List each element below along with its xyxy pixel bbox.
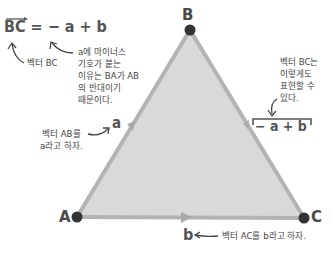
edge-label-b: b (183, 225, 193, 244)
annotation-minus-reason: a에 마이너스 기호가 붙는 이유는 BA가 AB 의 반대이기 때문이다. (78, 46, 139, 106)
vertex-a-dot (72, 212, 83, 223)
equation-equals: = (31, 17, 43, 36)
annotation-line: 이렇게도 (280, 68, 318, 80)
annotation-line: 때문이다. (78, 94, 139, 106)
annotation-line: a에 마이너스 (78, 46, 139, 58)
annotation-line: 의 반대이기 (78, 82, 139, 94)
vertex-c-dot (299, 213, 310, 224)
annotation-vector-bc: 벡터 BC (27, 57, 57, 69)
bc-expression: − a + b (255, 118, 307, 134)
curved-arrow-bc-label-icon (12, 44, 24, 63)
equation-lhs: BC (4, 17, 26, 36)
curved-arrow-ab-icon (88, 129, 108, 135)
vertex-b-dot (185, 25, 196, 36)
annotation-line: 벡터 AB를 (40, 128, 83, 140)
annotation-line: a라고 하자. (40, 140, 83, 152)
edge-label-a: a (112, 114, 121, 132)
annotation-ab-def: 벡터 AB를 a라고 하자. (40, 128, 83, 152)
vertex-label-b: B (182, 6, 193, 24)
annotation-bc-alt: 벡터 BC는 이렇게도 표현할 수 있다. (280, 56, 318, 104)
annotation-line: 기호가 붙는 (78, 58, 139, 70)
curved-arrow-minus-icon (52, 43, 73, 53)
equation-rhs: − a + b (48, 17, 107, 36)
arrow-ac-icon (196, 235, 218, 236)
annotation-line: 있다. (280, 92, 318, 104)
vertex-label-a: A (59, 208, 71, 226)
annotation-line: 벡터 BC는 (280, 56, 318, 68)
annotation-line: 표현할 수 (280, 80, 318, 92)
equation: BC = − a + b (4, 17, 107, 36)
vertex-label-c: C (311, 208, 322, 226)
annotation-ac-def: 벡터 AC를 b라고 하자. (222, 230, 306, 242)
annotation-line: 이유는 BA가 AB (78, 70, 139, 82)
